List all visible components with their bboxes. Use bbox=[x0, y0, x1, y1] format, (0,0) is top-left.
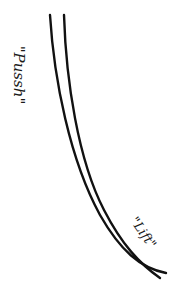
push-label: "Pussh" bbox=[10, 46, 28, 105]
motion-diagram bbox=[0, 0, 192, 282]
